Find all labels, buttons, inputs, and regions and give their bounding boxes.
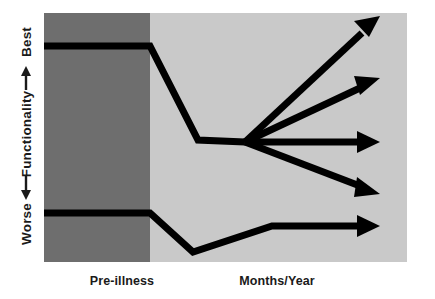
y-axis-label-functionality: Functionality	[19, 90, 34, 177]
y-axis-label-group: Worse Functionality Best	[19, 27, 34, 245]
x-axis-label-pre-illness: Pre-illness	[90, 274, 154, 288]
y-axis-arrow-down-head-icon	[21, 190, 31, 200]
x-axis-label-months-year: Months/Year	[239, 274, 314, 288]
y-axis-label-best: Best	[19, 27, 34, 57]
y-axis-label-worse: Worse	[19, 203, 34, 245]
figure-container: Worse Functionality Best Pre-illness Mon…	[0, 0, 435, 299]
trajectory-diagram: Worse Functionality Best Pre-illness Mon…	[0, 0, 435, 299]
y-axis-arrow-up-head-icon	[21, 66, 31, 76]
band-pre-illness	[44, 13, 150, 262]
